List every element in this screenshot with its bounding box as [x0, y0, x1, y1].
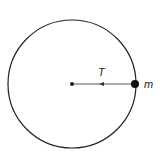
tension-label: T: [98, 66, 106, 78]
mass-point: [131, 80, 139, 88]
center-point: [70, 82, 74, 86]
mass-label: m: [144, 78, 153, 90]
circular-motion-diagram: T m: [0, 0, 164, 161]
tension-arrowhead-icon: [99, 82, 104, 86]
